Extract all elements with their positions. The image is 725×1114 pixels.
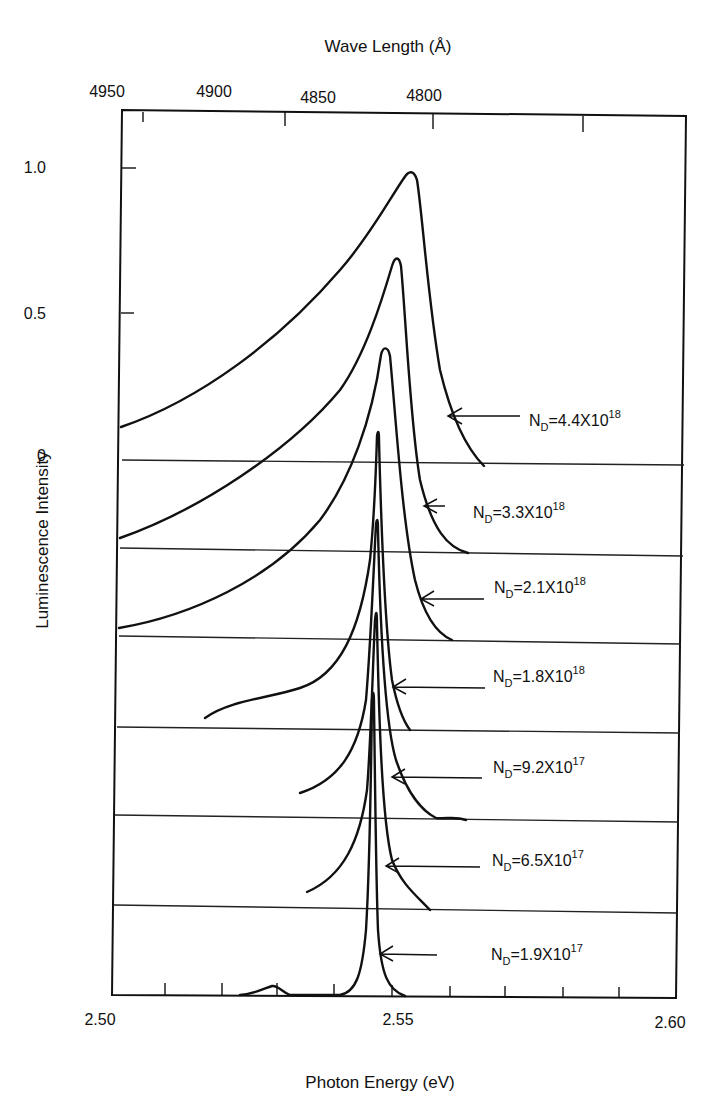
legend-label-1-8e18: ND=1.8X1018 (493, 664, 585, 689)
luminescence-chart: Wave Length (Å) Photon Energy (eV) Lumin… (0, 0, 725, 1114)
left-tick-label-0-5: 0.5 (24, 305, 46, 322)
top-tick-label-4850: 4850 (300, 89, 336, 106)
bottom-axis-title: Photon Energy (eV) (305, 1073, 454, 1092)
legend-label-3-3e18: ND=3.3X1018 (473, 500, 565, 525)
svg-text:ND=9.2X1017: ND=9.2X1017 (493, 755, 585, 780)
svg-text:ND=6.5X1017: ND=6.5X1017 (492, 848, 584, 873)
svg-text:ND=2.1X1018: ND=2.1X1018 (494, 575, 586, 600)
spectrum-curve-2-1e18 (119, 348, 452, 640)
bottom-tick-label-2-60: 2.60 (654, 1014, 685, 1031)
top-tick-label-4800: 4800 (406, 87, 442, 104)
legend-label-2-1e18: ND=2.1X1018 (494, 575, 586, 600)
svg-text:ND=4.4X1018: ND=4.4X1018 (529, 408, 621, 433)
legend-label-1-9e17: ND=1.9X1017 (491, 942, 583, 967)
left-tick-label-1-0: 1.0 (24, 159, 46, 176)
svg-text:ND=1.9X1017: ND=1.9X1017 (491, 942, 583, 967)
legend-label-9-2e17: ND=9.2X1017 (493, 755, 585, 780)
legend-label-4-4e18: ND=4.4X1018 (529, 408, 621, 433)
bottom-tick-label-2-55: 2.55 (382, 1011, 413, 1028)
left-axis-title: Luminescence Intensity (33, 451, 52, 629)
svg-text:ND=1.8X1018: ND=1.8X1018 (493, 664, 585, 689)
left-ticks (121, 168, 136, 313)
top-tick-label-4950: 4950 (89, 83, 125, 100)
legend-label-6-5e17: ND=6.5X1017 (492, 848, 584, 873)
top-tick-label-4900: 4900 (196, 83, 232, 100)
left-tick-label-0: 0 (37, 447, 46, 464)
spectrum-curve-4-4e18 (121, 172, 484, 466)
svg-text:ND=3.3X1018: ND=3.3X1018 (473, 500, 565, 525)
plot-frame (112, 110, 686, 998)
top-axis-title: Wave Length (Å) (325, 37, 452, 56)
bottom-tick-label-2-50: 2.50 (84, 1011, 115, 1028)
